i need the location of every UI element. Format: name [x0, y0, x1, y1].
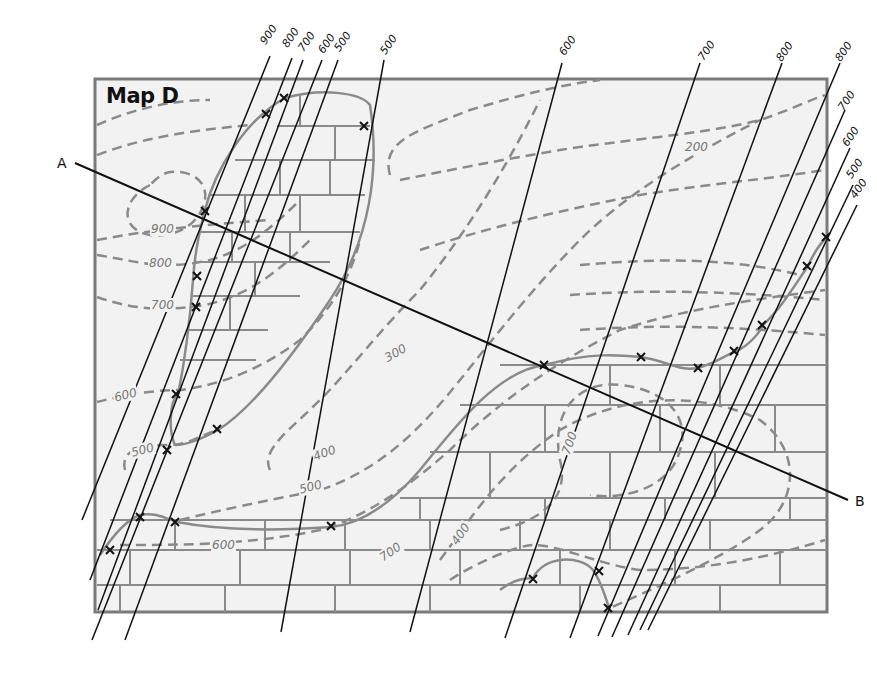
contour-label-900: 900 — [150, 222, 175, 236]
contour-label-200: 200 — [684, 140, 709, 154]
map-title: Map D — [106, 84, 178, 108]
contour-label-600-bottom: 600 — [211, 538, 236, 552]
section-start-label: A — [57, 155, 67, 171]
section-end-label: B — [855, 493, 865, 509]
contour-label-800: 800 — [148, 256, 173, 270]
contour-label-700: 700 — [150, 298, 175, 312]
